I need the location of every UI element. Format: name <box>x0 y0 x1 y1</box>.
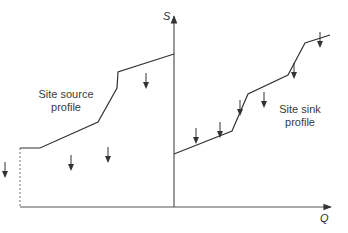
y-axis-label: S <box>163 10 170 22</box>
down-arrow-head-icon <box>105 156 111 163</box>
down-arrow-head-icon <box>143 82 149 89</box>
down-arrow-head-icon <box>261 101 267 108</box>
x-axis-label: Q <box>320 212 329 224</box>
site-sink-profile-line <box>174 35 330 154</box>
down-arrow-head-icon <box>193 137 199 144</box>
down-arrow-head-icon <box>68 164 74 171</box>
site-source-profile-label: Site source profile <box>30 88 102 114</box>
down-arrow-head-icon <box>2 171 8 178</box>
site-sink-profile-label: Site sink profile <box>270 103 330 129</box>
down-arrow-head-icon <box>291 72 297 79</box>
down-arrow-head-icon <box>237 109 243 116</box>
down-arrow-head-icon <box>317 41 323 48</box>
